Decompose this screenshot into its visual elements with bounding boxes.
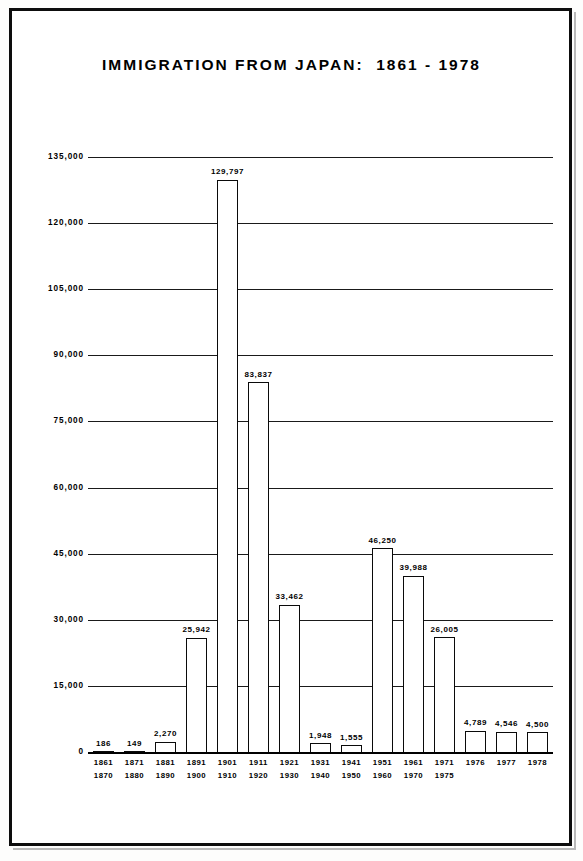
period-start: 1941 — [342, 758, 361, 767]
x-axis-tick-label: 1978 — [518, 757, 558, 770]
gridline-120000 — [88, 223, 553, 224]
bar-value-label: 39,988 — [382, 563, 446, 572]
x-axis-baseline — [88, 752, 553, 754]
y-axis-tick-label: 45,000 — [8, 549, 84, 558]
y-axis-tick-label: 60,000 — [8, 483, 84, 492]
plot-area: 1861492,27025,942129,79783,83733,4621,94… — [88, 157, 553, 752]
gridline-15000 — [88, 686, 553, 687]
period-start: 1891 — [187, 758, 206, 767]
gridline-75000 — [88, 421, 553, 422]
period-start: 1951 — [373, 758, 392, 767]
bar — [217, 180, 237, 753]
period-start: 1971 — [435, 758, 454, 767]
bar — [248, 382, 268, 753]
gridline-105000 — [88, 289, 553, 290]
y-axis-tick-label: 135,000 — [8, 152, 84, 161]
period-start: 1976 — [466, 758, 485, 767]
bar — [465, 731, 485, 753]
bar — [186, 638, 206, 753]
y-axis-tick-label: 90,000 — [8, 350, 84, 359]
bar — [372, 548, 392, 753]
bar — [403, 576, 423, 753]
page-title: IMMIGRATION FROM JAPAN: 1861 - 1978 — [0, 56, 583, 74]
gridline-135000 — [88, 157, 553, 158]
period-start: 1861 — [94, 758, 113, 767]
period-start: 1881 — [156, 758, 175, 767]
bar — [527, 732, 547, 753]
y-axis-tick-label: 75,000 — [8, 416, 84, 425]
bar — [496, 732, 516, 753]
period-end: 1975 — [425, 770, 465, 783]
bar-value-label: 46,250 — [351, 536, 415, 545]
y-axis-labels: 135,000120,000105,00090,00075,00060,0004… — [4, 157, 84, 752]
chart-page: IMMIGRATION FROM JAPAN: 1861 - 1978 135,… — [0, 0, 583, 861]
y-axis-tick-label: 105,000 — [8, 284, 84, 293]
period-start: 1931 — [311, 758, 330, 767]
gridline-60000 — [88, 488, 553, 489]
period-start: 1871 — [125, 758, 144, 767]
gridline-45000 — [88, 554, 553, 555]
period-start: 1961 — [404, 758, 423, 767]
period-start: 1901 — [218, 758, 237, 767]
bar — [434, 637, 454, 753]
period-start: 1911 — [249, 758, 268, 767]
gridline-30000 — [88, 620, 553, 621]
y-axis-tick-label: 30,000 — [8, 615, 84, 624]
gridline-90000 — [88, 355, 553, 356]
bar-value-label: 4,500 — [506, 720, 570, 729]
period-start: 1977 — [497, 758, 516, 767]
period-start: 1921 — [280, 758, 299, 767]
period-start: 1978 — [528, 758, 547, 767]
y-axis-tick-label: 120,000 — [8, 218, 84, 227]
bar-value-label: 83,837 — [227, 370, 291, 379]
y-axis-tick-label: 15,000 — [8, 681, 84, 690]
bar-value-label: 33,462 — [258, 592, 322, 601]
bar-value-label: 129,797 — [196, 167, 260, 176]
bar-value-label: 26,005 — [413, 625, 477, 634]
x-axis-labels: 1861187018711880188118901891190019011910… — [88, 757, 553, 791]
y-axis-tick-label: 0 — [8, 747, 84, 756]
